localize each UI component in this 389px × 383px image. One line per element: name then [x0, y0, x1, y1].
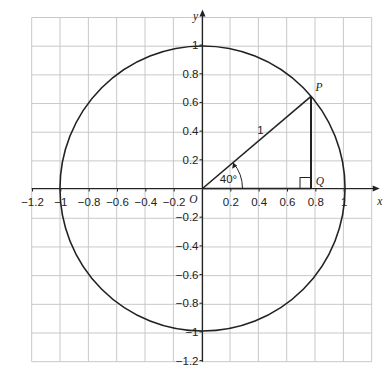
- y-tick-label: 0.6: [183, 96, 199, 108]
- x-tick-label: −1.2: [21, 196, 44, 208]
- point-q-label: Q: [316, 175, 325, 187]
- hypotenuse-op: [203, 96, 312, 188]
- grid: [32, 18, 372, 362]
- x-tick-label: −0.4: [134, 196, 157, 208]
- y-tick-label: 0.8: [183, 68, 199, 80]
- origin-label: O: [189, 193, 198, 205]
- y-tick-label: −1.2: [176, 355, 199, 367]
- point-p-label: P: [315, 81, 323, 93]
- y-tick-label: −0.6: [176, 269, 199, 281]
- x-tick-label: 0.2: [223, 196, 239, 208]
- right-angle-icon: [300, 178, 311, 189]
- x-tick-label: −1: [54, 196, 67, 208]
- y-tick-label: −0.2: [176, 211, 199, 223]
- y-tick-label: −0.8: [176, 297, 199, 309]
- x-tick-label: 0.8: [308, 196, 324, 208]
- x-tick-label: 1: [341, 196, 347, 208]
- x-axis-label: x: [376, 195, 383, 207]
- y-axis-label: y: [192, 10, 199, 23]
- x-tick-label: −0.8: [78, 196, 101, 208]
- triangle-opq: [203, 96, 312, 188]
- x-tick-label: 0.4: [251, 196, 268, 208]
- angle-label: 40°: [220, 173, 237, 185]
- y-tick-label: 0.2: [183, 154, 199, 166]
- x-axis-arrow-icon: [373, 186, 380, 192]
- y-tick-label: −0.4: [176, 240, 199, 252]
- x-tick-label: −0.6: [106, 196, 129, 208]
- y-tick-label: 1: [192, 39, 198, 51]
- hypotenuse-label: 1: [257, 124, 263, 136]
- x-tick-label: −0.2: [163, 196, 186, 208]
- y-tick-label: 0.4: [183, 125, 200, 137]
- unit-circle-diagram: −1.2−1−0.8−0.6−0.4−0.20.20.40.60.8110.80…: [0, 0, 389, 383]
- y-axis-arrow-icon: [200, 10, 206, 17]
- x-tick-label: 0.6: [280, 196, 296, 208]
- y-tick-label: −1: [185, 326, 198, 338]
